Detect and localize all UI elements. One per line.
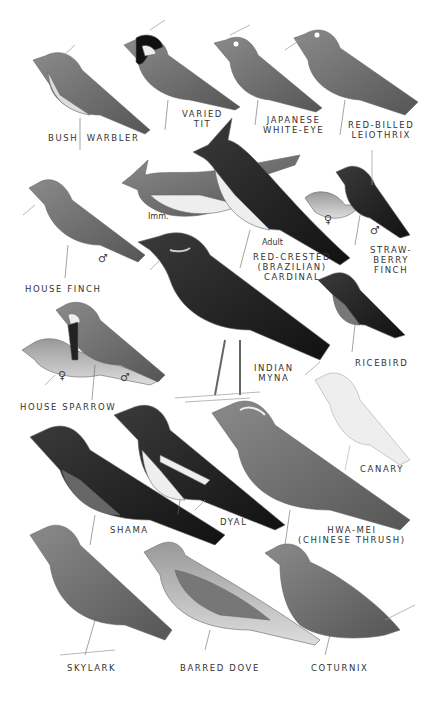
label-immature: Imm. bbox=[148, 212, 169, 221]
label-indian-myna: INDIAN MYNA bbox=[254, 363, 294, 383]
label-canary: CANARY bbox=[360, 464, 404, 474]
label-hwa-mei: HWA-MEI (CHINESE THRUSH) bbox=[298, 525, 406, 545]
bird-illustrations bbox=[0, 0, 424, 703]
female-symbol: ♀ bbox=[324, 213, 332, 226]
skylark-illustration bbox=[30, 525, 172, 655]
label-dyal: DYAL bbox=[220, 517, 248, 527]
label-barred-dove: BARRED DOVE bbox=[180, 663, 260, 673]
label-strawberry-finch: STRAW- BERRY FINCH bbox=[370, 245, 412, 275]
label-red-billed-leiothrix: RED-BILLED LEIOTHRIX bbox=[348, 120, 414, 140]
ricebird-illustration bbox=[318, 273, 405, 352]
male-symbol: ♂ bbox=[370, 224, 380, 237]
label-varied-tit: VARIED TIT bbox=[182, 109, 223, 129]
label-shama: SHAMA bbox=[110, 525, 149, 535]
label-house-sparrow: HOUSE SPARROW bbox=[20, 402, 116, 412]
house-finch-illustration bbox=[29, 180, 145, 278]
label-japanese-white-eye: JAPANESE WHITE-EYE bbox=[263, 115, 324, 135]
male-symbol: ♂ bbox=[120, 371, 130, 384]
male-symbol: ♂ bbox=[98, 252, 108, 265]
label-bush-warbler: BUSH WARBLER bbox=[48, 133, 140, 143]
canary-illustration bbox=[315, 373, 410, 470]
label-house-finch: HOUSE FINCH bbox=[25, 284, 101, 294]
label-adult: Adult bbox=[262, 238, 283, 247]
bird-plate: BUSH WARBLER VARIED TIT JAPANESE WHITE-E… bbox=[0, 0, 424, 703]
label-red-crested-cardinal: RED-CRESTED (BRAZILIAN) CARDINAL bbox=[253, 252, 331, 282]
label-ricebird: RICEBIRD bbox=[355, 358, 408, 368]
female-symbol: ♀ bbox=[58, 369, 66, 382]
house-sparrow-male-illustration bbox=[56, 302, 165, 400]
label-coturnix: COTURNIX bbox=[311, 663, 368, 673]
label-skylark: SKYLARK bbox=[67, 663, 116, 673]
